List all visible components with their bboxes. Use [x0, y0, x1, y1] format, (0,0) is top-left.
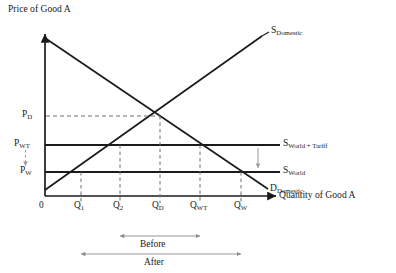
y-axis-title: Price of Good A	[8, 4, 71, 14]
curve-label-d-domestic-sub: Domestic	[277, 187, 303, 194]
origin-label: 0	[39, 201, 44, 210]
quantity-tick-q1-sub: 1	[81, 204, 84, 211]
price-tick-pwt: PWT	[14, 139, 30, 149]
quantity-tick-q2-base: Q	[113, 200, 120, 210]
quantity-tick-q1-base: Q	[74, 200, 81, 210]
span-label-after: After	[144, 258, 164, 267]
span-label-before: Before	[140, 240, 166, 249]
curve-label-s-world-tariff-sub: World + Tariff	[288, 142, 327, 149]
quantity-tick-qw-base: Q	[234, 200, 241, 210]
quantity-tick-q2-sub: 2	[120, 204, 123, 211]
quantity-tick-qwt-sub: WT	[197, 204, 208, 211]
curve-label-s-domestic: SDomestic	[271, 26, 302, 36]
price-tick-pw-sub: W	[25, 169, 31, 176]
curve-label-s-domestic-sub: Domestic	[276, 29, 302, 36]
curve-label-s-world-tariff: SWorld + Tariff	[283, 139, 327, 149]
price-tick-pd-sub: D	[27, 113, 32, 120]
price-tick-pd: PD	[22, 110, 32, 120]
quantity-tick-qd-sub: D	[159, 204, 164, 211]
quantity-tick-qd-base: Q	[152, 200, 159, 210]
price-tick-pwt-sub: WT	[19, 142, 30, 149]
curve-label-d-domestic-base: D	[270, 183, 277, 193]
curve-label-s-world: SWorld	[283, 166, 305, 176]
leader-s-domestic	[262, 32, 269, 36]
quantity-tick-qw-sub: W	[241, 204, 247, 211]
quantity-tick-qd: QD	[152, 201, 164, 210]
quantity-tick-q2: Q2	[113, 201, 123, 210]
price-tick-pw: PW	[20, 166, 32, 176]
quantity-tick-qwt-base: Q	[190, 200, 197, 210]
supply-demand-tariff-diagram: Price of Good A Quantity of Good A 0 PD …	[0, 0, 396, 273]
quantity-tick-qw: QW	[234, 201, 247, 210]
curve-label-s-world-sub: World	[288, 169, 305, 176]
curve-label-d-domestic: DDomestic	[270, 184, 303, 194]
quantity-tick-q1: Q1	[74, 201, 84, 210]
diagram-canvas	[0, 0, 396, 273]
quantity-tick-qwt: QWT	[190, 201, 207, 210]
